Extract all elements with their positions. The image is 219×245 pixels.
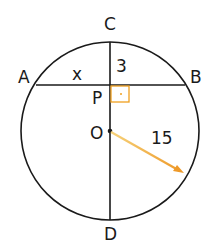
circle-diagram: C A x 3 B P O 15 D [0,0,219,245]
label-o: O [90,123,103,143]
label-c: C [104,14,116,34]
label-x: x [72,64,82,84]
right-angle-dot [120,93,122,95]
label-d: D [104,224,117,244]
label-radius-15: 15 [151,128,173,148]
label-a: A [18,67,30,87]
arrowhead-icon [173,165,184,173]
label-p: P [92,88,102,108]
label-3: 3 [116,56,127,76]
label-b: B [190,67,202,87]
